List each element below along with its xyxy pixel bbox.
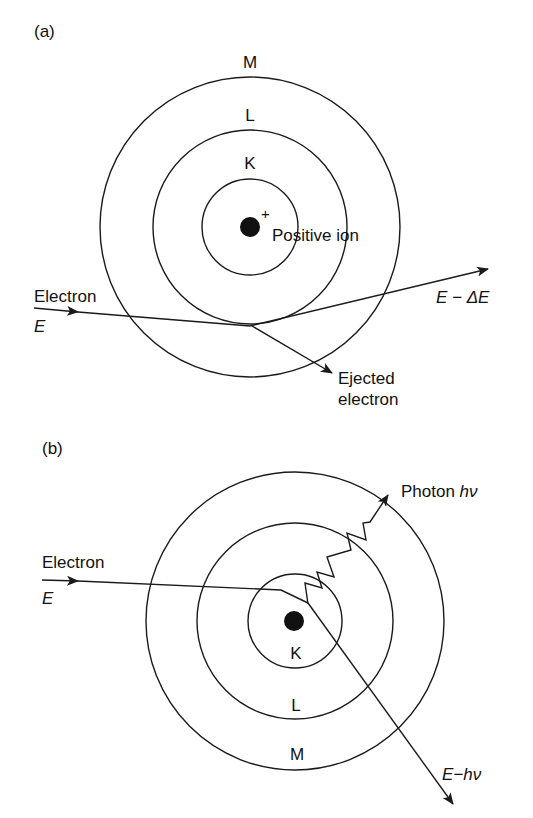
positive-ion-label: Positive ion bbox=[272, 226, 359, 245]
incoming-energy-label: E bbox=[34, 317, 46, 336]
panel-a: (a) M L K + Positive ion Electron E E − … bbox=[34, 22, 490, 409]
figure: (a) M L K + Positive ion Electron E E − … bbox=[0, 0, 533, 818]
panel-b: (b) K L M Electron E Photon hν E−hν bbox=[42, 439, 482, 804]
shell-m-label: M bbox=[243, 53, 257, 72]
photon-wave-arrow bbox=[305, 495, 388, 604]
shell-k-label: K bbox=[244, 154, 256, 173]
incoming-electron-arrow bbox=[34, 308, 78, 312]
decelerated-energy-label: E−hν bbox=[442, 765, 482, 784]
panel-b-label: (b) bbox=[42, 439, 63, 458]
incoming-electron-path bbox=[78, 581, 308, 603]
shell-m-label: M bbox=[290, 745, 304, 764]
shell-k-label: K bbox=[290, 644, 302, 663]
scattered-energy-label: E − ΔE bbox=[436, 288, 490, 307]
decelerated-electron-arrow bbox=[308, 603, 453, 804]
incoming-electron-label: Electron bbox=[42, 553, 104, 572]
photon-label: Photon hν bbox=[401, 482, 478, 501]
shell-l-label: L bbox=[291, 696, 300, 715]
incoming-electron-path bbox=[78, 312, 250, 326]
ejected-electron-arrow bbox=[252, 326, 332, 373]
incoming-energy-label: E bbox=[42, 589, 54, 608]
positive-charge-sign: + bbox=[261, 205, 270, 222]
panel-a-label: (a) bbox=[34, 22, 55, 41]
nucleus-dot bbox=[240, 217, 260, 237]
ejected-label-line2: electron bbox=[338, 390, 398, 409]
incoming-electron-label: Electron bbox=[34, 287, 96, 306]
shell-l-label: L bbox=[245, 106, 254, 125]
ejected-label-line1: Ejected bbox=[338, 369, 395, 388]
nucleus-dot bbox=[284, 611, 304, 631]
incoming-electron-arrow bbox=[42, 580, 78, 581]
